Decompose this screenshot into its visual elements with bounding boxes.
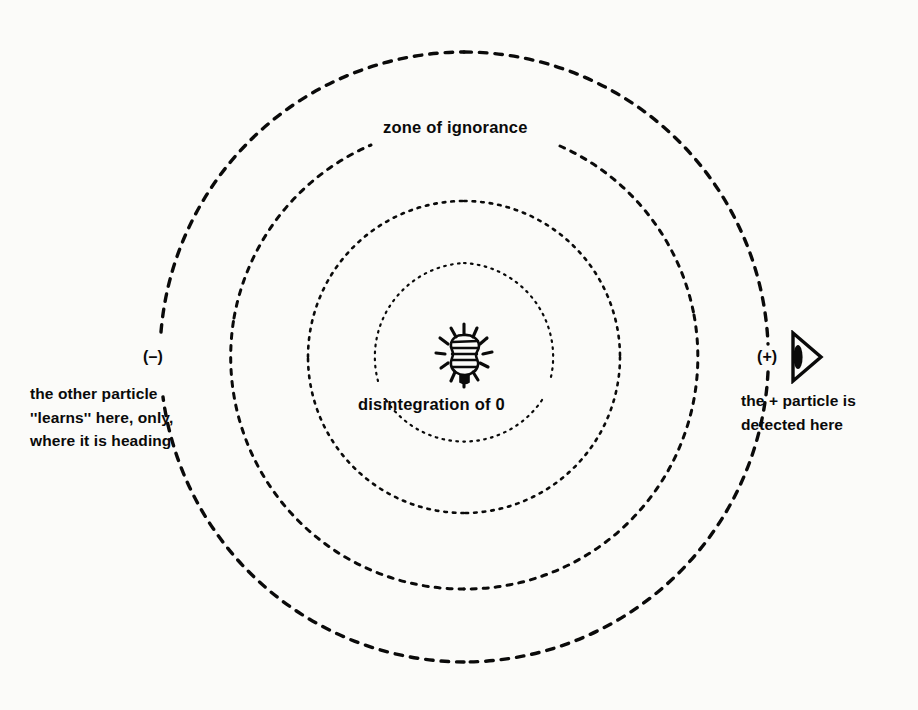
label-left-caption: the other particle ''learns'' here, only… bbox=[30, 382, 173, 453]
ring-third-arc-bottom-left bbox=[231, 318, 464, 589]
label-zone-of-ignorance: zone of ignorance bbox=[383, 116, 528, 139]
ring-third-arc-bottom-right bbox=[464, 315, 698, 589]
label-disintegration-of-0: disintegration of 0 bbox=[358, 393, 505, 416]
ring-outer-arc-top-left bbox=[161, 52, 464, 332]
diagram-canvas: zone of ignorance disintegration of 0 (–… bbox=[0, 0, 918, 710]
burst-core-base bbox=[460, 375, 469, 384]
detector-aperture bbox=[793, 345, 802, 369]
label-right-caption: the + particle is detected here bbox=[741, 389, 856, 436]
ring-third-arc-upper-right bbox=[560, 146, 694, 315]
label-minus-sign: (–) bbox=[143, 346, 163, 368]
ring-outer-arc-top-right bbox=[464, 52, 768, 344]
detector-icon bbox=[786, 330, 826, 384]
ring-outer-arc-bottom-left bbox=[163, 397, 464, 662]
disintegration-burst-icon bbox=[432, 322, 496, 392]
ring-outer-arc-bottom-right bbox=[464, 372, 768, 662]
burst-core-stripes bbox=[452, 341, 478, 367]
ring-third-arc-upper-left bbox=[234, 145, 371, 318]
label-plus-sign: (+) bbox=[757, 346, 777, 368]
